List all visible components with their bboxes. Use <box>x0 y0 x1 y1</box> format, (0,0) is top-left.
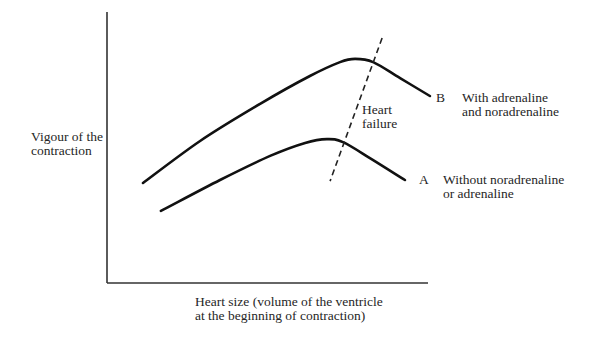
y-axis-label-line-1: Vigour of the <box>31 130 103 144</box>
series-a-curve <box>161 139 405 211</box>
series-b-tag: B <box>436 91 445 105</box>
series-a-description-line-2: or adrenaline <box>443 187 564 201</box>
x-axis-label-line-2: at the beginning of contraction) <box>195 309 383 323</box>
series-layer <box>143 59 430 211</box>
heart-failure-label: Heart failure <box>362 103 397 131</box>
series-b-description-line-2: and noradrenaline <box>462 105 559 119</box>
chart <box>0 0 596 338</box>
series-a-tag: A <box>419 173 429 187</box>
series-b-description: With adrenaline and noradrenaline <box>462 91 559 119</box>
x-axis-label-line-1: Heart size (volume of the ventricle <box>195 295 383 309</box>
y-axis-label-line-2: contraction <box>31 144 103 158</box>
series-a-description: Without noradrenaline or adrenaline <box>443 173 564 201</box>
x-axis-label: Heart size (volume of the ventricle at t… <box>195 295 383 323</box>
series-a-description-line-1: Without noradrenaline <box>443 173 564 187</box>
heart-failure-label-line-1: Heart <box>362 103 397 117</box>
series-b-description-line-1: With adrenaline <box>462 91 559 105</box>
heart-failure-label-line-2: failure <box>362 117 397 131</box>
y-axis-label: Vigour of the contraction <box>31 130 103 158</box>
